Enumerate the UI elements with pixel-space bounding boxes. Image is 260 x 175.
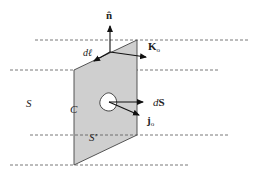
s-label: S [26,97,32,109]
c-label: C [70,103,78,115]
surface-diagram: n̂ dℓ Ko dS jo S C S′ [0,0,260,175]
k-label: Ko [148,40,161,54]
dl-label: dℓ [83,47,92,58]
ds-label: dS [153,96,165,108]
normal-label: n̂ [106,9,112,21]
s-prime-label: S′ [89,131,98,143]
j-label: jo [146,114,155,128]
